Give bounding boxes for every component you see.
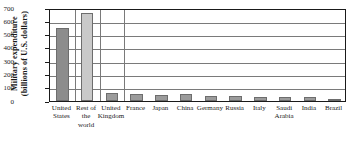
bar-france — [130, 94, 142, 101]
bar-germany — [205, 96, 217, 101]
bar-china — [180, 94, 192, 101]
bar-series — [50, 10, 345, 101]
x-tick-label-line: world — [67, 121, 106, 129]
bar-united-states — [56, 28, 68, 101]
x-tick-label-brazil: Brazil — [314, 104, 353, 112]
x-tick-label-line: Arabia — [265, 112, 304, 120]
y-tick-label-600: 600 — [0, 19, 14, 26]
x-tick-label-line: Brazil — [314, 104, 353, 112]
bar-japan — [155, 95, 167, 101]
y-tick-label-300: 300 — [0, 59, 14, 66]
x-axis-tick-labels: UnitedStatesRest oftheworldUnitedKingdom… — [49, 104, 346, 146]
y-tick-label-500: 500 — [0, 32, 14, 39]
bar-rest-of-the-world — [81, 13, 93, 101]
y-tick-label-700: 700 — [0, 6, 14, 13]
bar-russia — [229, 96, 241, 101]
bar-india — [304, 97, 316, 101]
y-axis-title-line1: Military expenditure — [10, 16, 19, 91]
bar-united-kingdom — [106, 93, 118, 101]
y-tick-label-400: 400 — [0, 45, 14, 52]
y-axis-title-line2: (billions of U.S. dollars) — [20, 0, 30, 118]
bar-italy — [254, 97, 266, 101]
plot-area — [49, 9, 346, 102]
x-tick-label-line: Kingdom — [92, 112, 131, 120]
y-tick-label-0: 0 — [0, 99, 14, 106]
bar-brazil — [328, 99, 340, 101]
y-tick-label-100: 100 — [0, 85, 14, 92]
y-tick-label-200: 200 — [0, 72, 14, 79]
bar-saudi-arabia — [279, 97, 291, 101]
chart-figure: Military expenditure (billions of U.S. d… — [0, 0, 363, 147]
